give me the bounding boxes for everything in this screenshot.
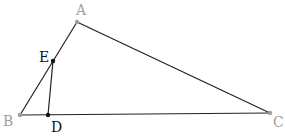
point-C [268,111,272,115]
point-D [46,113,50,117]
points [18,20,272,117]
segment-BC [20,113,270,115]
segments [20,22,270,115]
segment-AC [77,22,270,113]
point-E [51,59,55,63]
label-A: A [75,2,87,18]
label-E: E [39,49,49,65]
segment-AB [20,22,77,115]
label-C: C [273,114,284,130]
triangle-diagram: A B C E D [0,0,285,138]
label-D: D [51,119,62,135]
point-A [75,20,79,24]
point-B [18,113,22,117]
label-B: B [3,113,13,129]
